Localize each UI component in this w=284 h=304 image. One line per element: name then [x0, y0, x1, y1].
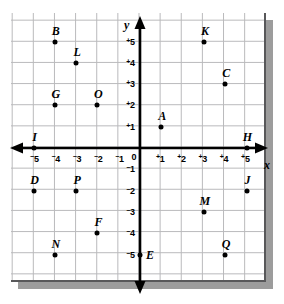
coordinate-plane-figure: −5−4−3−2−10+1+2+3+4+5 +5+4+3+2+1−1−2−3−4…	[0, 0, 284, 304]
grid-card	[11, 13, 266, 282]
grid-lines	[11, 13, 264, 280]
